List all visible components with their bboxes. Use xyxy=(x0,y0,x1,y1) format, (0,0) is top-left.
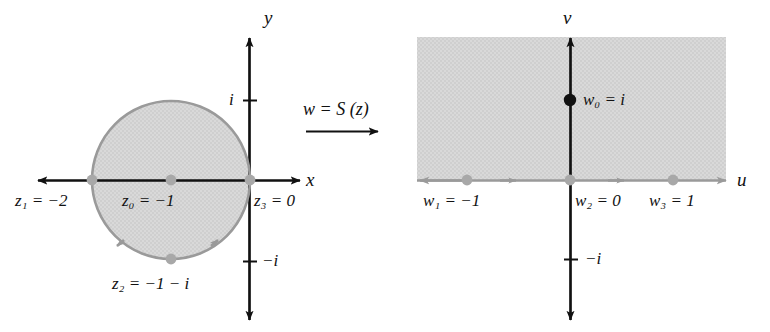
w-plane-point-w3 xyxy=(668,175,679,186)
w-plane-label-w0: w₀ = i xyxy=(583,91,625,108)
z-plane-point-z0 xyxy=(166,175,177,186)
w-plane-label-w1: w₁ = −1 xyxy=(423,192,480,209)
w-plane-tick-minus-i-label: −i xyxy=(585,250,601,267)
z-plane-point-z1 xyxy=(87,175,98,186)
z-plane-tick-i-label: i xyxy=(229,91,234,108)
z-plane-point-z3 xyxy=(245,175,256,186)
w-plane-u-axis-label: u xyxy=(737,170,747,189)
z-plane-point-z2 xyxy=(166,254,177,265)
z-plane-label-z0: z₀ = −1 xyxy=(122,192,174,209)
z-plane-label-z2: z₂ = −1 − i xyxy=(112,275,189,292)
w-plane-point-w0 xyxy=(564,94,576,106)
z-plane-y-axis-label: y xyxy=(264,8,272,27)
w-plane-group xyxy=(417,37,726,320)
z-plane-label-z1: z₁ = −2 xyxy=(15,192,67,209)
w-plane-label-w3: w₃ = 1 xyxy=(649,192,695,209)
z-plane-label-z3: z₃ = 0 xyxy=(254,192,295,209)
mapping-label: w = S (z) xyxy=(303,100,369,118)
w-plane-point-w1 xyxy=(462,175,473,186)
w-plane-label-w2: w₂ = 0 xyxy=(575,192,621,209)
w-plane-point-w2 xyxy=(565,175,576,186)
complex-mapping-figure: y x i −i z₁ = −2 z₀ = −1 z₃ = 0 z₂ = −1 … xyxy=(0,0,770,332)
z-plane-x-axis-label: x xyxy=(306,170,314,189)
w-plane-v-axis-label: v xyxy=(563,8,571,27)
z-plane-tick-minus-i-label: −i xyxy=(262,252,278,269)
